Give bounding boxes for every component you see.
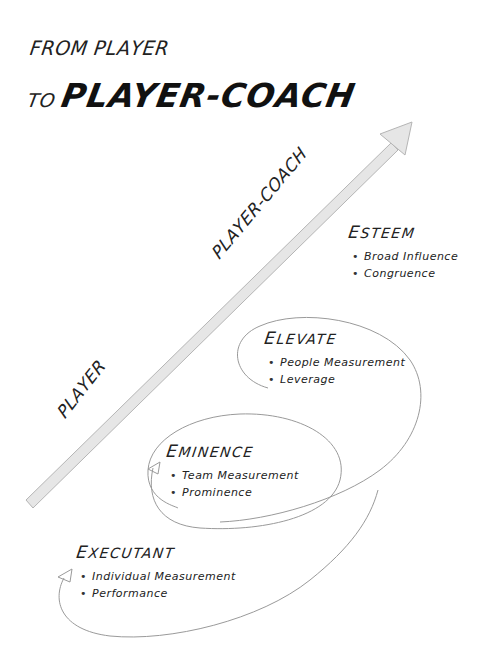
stage-bullets: Individual Measurement Performance (78, 568, 236, 602)
stage-title: ESTEEM (347, 222, 458, 242)
stage-executant: EXECUTANT Individual Measurement Perform… (78, 542, 236, 602)
stage-title: EMINENCE (165, 441, 299, 461)
bullet-item: Leverage (266, 371, 405, 388)
bullet-item: Team Measurement (168, 467, 299, 484)
executant-arrowhead-icon (58, 569, 72, 582)
stage-bullets: Broad Influence Congruence (350, 248, 458, 282)
title-line-1: FROM PLAYER (29, 36, 171, 59)
stage-elevate: ELEVATE People Measurement Leverage (266, 328, 405, 388)
stage-title: ELEVATE (263, 328, 405, 348)
stage-bullets: People Measurement Leverage (266, 354, 405, 388)
stage-bullets: Team Measurement Prominence (168, 467, 299, 501)
bullet-item: Congruence (350, 265, 458, 282)
stage-esteem: ESTEEM Broad Influence Congruence (350, 222, 458, 282)
bullet-item: Individual Measurement (78, 568, 236, 585)
title-to: TO (26, 89, 57, 111)
stage-title: EXECUTANT (75, 542, 236, 562)
bullet-item: People Measurement (266, 354, 405, 371)
bullet-item: Performance (78, 585, 236, 602)
eminence-arrowhead-icon (148, 462, 160, 474)
title-main: PLAYER-COACH (59, 76, 359, 115)
bullet-item: Prominence (168, 484, 299, 501)
bullet-item: Broad Influence (350, 248, 458, 265)
stage-eminence: EMINENCE Team Measurement Prominence (168, 441, 299, 501)
title-line-2: TO PLAYER-COACH (25, 76, 359, 115)
